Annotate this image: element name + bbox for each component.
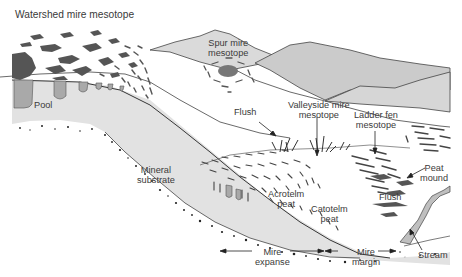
label-line: Ladder fen — [354, 110, 398, 120]
label-line: mesotope — [208, 48, 248, 58]
label-ladder-fen: Ladder fen mesotope — [354, 110, 398, 130]
label-line: Mire — [352, 247, 380, 257]
label-mire-margin: Mire margin — [352, 247, 380, 267]
label-line: Valleyside mire — [288, 100, 350, 110]
peat-mound-vegetation — [406, 126, 450, 151]
label-line: mesotope — [354, 120, 398, 130]
label-line: mound — [420, 173, 448, 183]
label-watershed-mire: Watershed mire mesotope — [15, 10, 134, 20]
label-catotelm-peat: Catotelm peat — [311, 204, 348, 224]
label-line: mesotope — [288, 110, 350, 120]
label-line: Mineral — [137, 165, 175, 175]
label-flush-lower: Flush — [379, 192, 401, 202]
label-line: peat — [268, 199, 304, 209]
label-peat-mound: Peat mound — [420, 163, 448, 183]
label-spur-mire: Spur mire mesotope — [208, 38, 248, 58]
label-flush-upper: Flush — [234, 107, 256, 117]
label-line: margin — [352, 257, 380, 267]
label-line: substrate — [137, 175, 175, 185]
label-line: expanse — [255, 257, 290, 267]
label-line: Spur mire — [208, 38, 248, 48]
ladder-fen-strings — [352, 150, 400, 195]
label-acrotelm-peat: Acrotelm peat — [268, 189, 304, 209]
label-valleyside-mire: Valleyside mire mesotope — [288, 100, 350, 120]
stream — [400, 186, 450, 246]
label-line: Acrotelm — [268, 189, 304, 199]
label-line: Catotelm — [311, 204, 348, 214]
label-mire-expanse: Mire expanse — [255, 247, 290, 267]
label-mineral-substrate: Mineral substrate — [137, 165, 175, 185]
label-line: Peat — [420, 163, 448, 173]
label-pool: Pool — [34, 100, 52, 110]
valleyside-surface — [200, 145, 410, 165]
label-stream: Stream — [418, 250, 448, 260]
label-line: Mire — [255, 247, 290, 257]
label-line: peat — [311, 214, 348, 224]
